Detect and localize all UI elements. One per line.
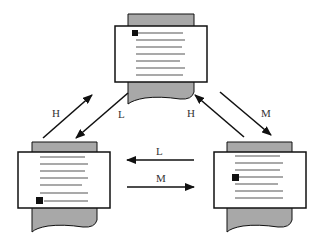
document-top: [115, 14, 207, 104]
document-right: [214, 142, 306, 232]
label-left-to-right: M: [156, 172, 166, 184]
cursor-marker-icon: [36, 197, 43, 204]
label-left-to-top: H: [52, 107, 60, 119]
label-right-to-top: H: [187, 107, 195, 119]
label-top-to-left: L: [118, 108, 125, 120]
document-left: [18, 142, 110, 232]
cursor-marker-icon: [232, 174, 239, 181]
document-transition-diagram: H L H M L M: [0, 0, 324, 245]
cursor-marker-icon: [132, 30, 138, 36]
label-top-to-right: M: [261, 107, 271, 119]
label-right-to-left: L: [156, 145, 163, 157]
arrow-right-to-top: [195, 95, 244, 137]
